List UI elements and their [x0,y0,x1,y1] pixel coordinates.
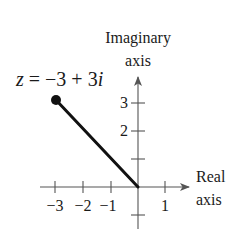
point-label: z = −3 + 3i [15,68,103,90]
real-axis-label-line2: axis [196,191,222,208]
imaginary-axis-label-line1: Imaginary [105,29,171,47]
vector-segment [56,100,138,187]
imaginary-axis-label-line2: axis [125,52,151,69]
x-tick-label-neg1: −1 [99,197,116,214]
real-axis-label-line1: Real [196,168,226,185]
x-tick-label-neg2: −2 [74,197,91,214]
complex-plane-diagram: −3 −2 −1 1 3 2 z = −3 + 3i Imaginary axi… [0,0,242,234]
y-tick-label-3: 3 [120,94,128,111]
point-label-eq: = −3 + 3 [24,68,98,90]
x-tick-label-1: 1 [161,197,169,214]
point-label-var: z [15,68,24,90]
point-z [51,95,61,105]
y-tick-label-2: 2 [120,122,128,139]
point-label-imag-unit: i [98,68,104,90]
x-tick-label-neg3: −3 [46,197,63,214]
